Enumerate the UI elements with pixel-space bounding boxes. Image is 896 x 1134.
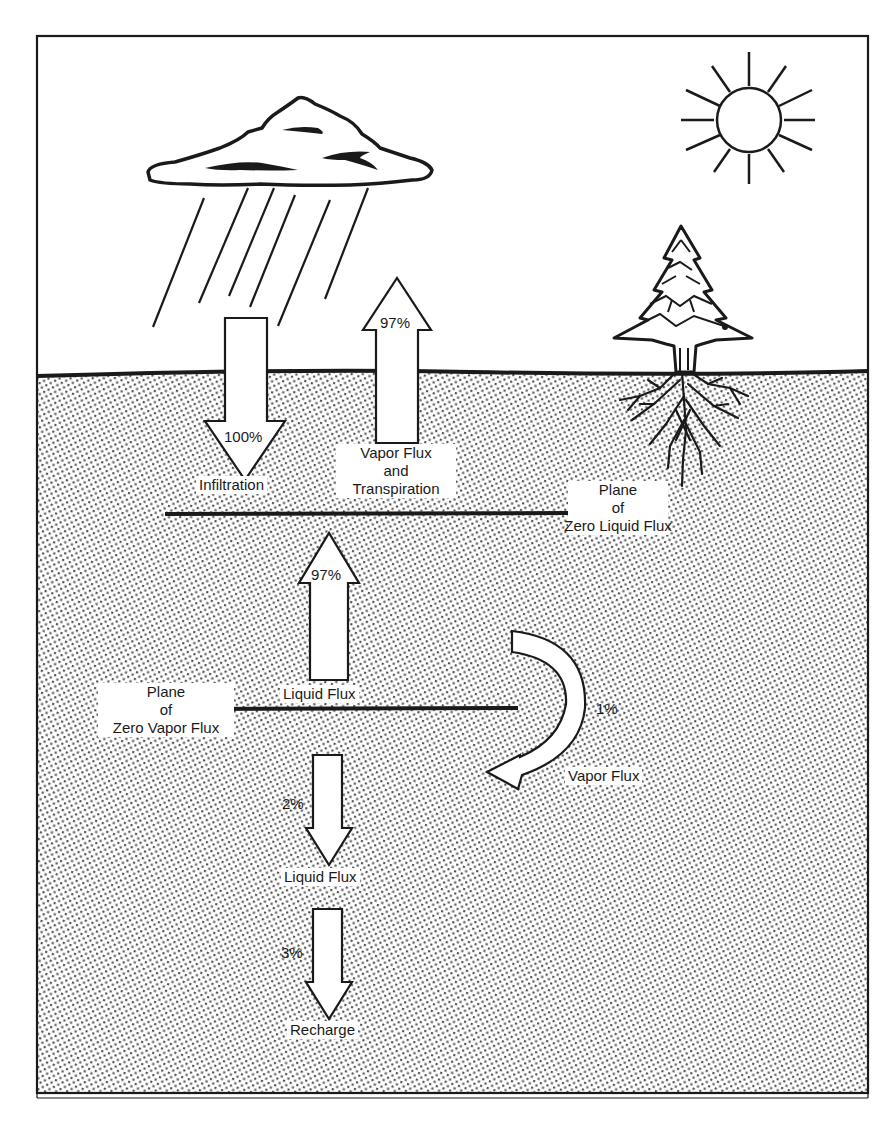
recharge-label: Recharge — [287, 1021, 358, 1039]
liquid-flux-down-percent: 2% — [282, 795, 304, 813]
liquid-flux-up-label: Liquid Flux — [280, 685, 359, 703]
sun-icon — [681, 52, 815, 184]
vapor-transpiration-label-line3: Transpiration — [339, 480, 453, 498]
diagram-graphics — [0, 0, 896, 1134]
zero-vapor-flux-plane-label: Plane of Zero Vapor Flux — [98, 683, 234, 737]
infiltration-label: Infiltration — [196, 476, 267, 494]
zero-vapor-flux-plane-line — [200, 708, 518, 709]
vapor-transpiration-label-line1: Vapor Flux — [339, 444, 453, 462]
vapor-transpiration-label-line2: and — [339, 462, 453, 480]
curved-vapor-flux-label: Vapor Flux — [565, 767, 642, 785]
vapor-transpiration-label: Vapor Flux and Transpiration — [336, 444, 456, 498]
recharge-percent: 3% — [281, 944, 303, 962]
zero-vapor-flux-line2: of — [101, 701, 231, 719]
zero-liquid-flux-line1: Plane — [571, 481, 665, 499]
zero-liquid-flux-line2: of — [571, 499, 665, 517]
liquid-flux-down-label: Liquid Flux — [281, 868, 360, 886]
zero-liquid-flux-plane-label: Plane of Zero Liquid Flux — [568, 481, 668, 535]
vapor-transpiration-percent: 97% — [380, 314, 410, 332]
liquid-flux-up-percent: 97% — [311, 566, 341, 584]
curved-vapor-flux-percent: 1% — [596, 700, 618, 718]
zero-vapor-flux-line1: Plane — [101, 683, 231, 701]
zero-vapor-flux-line3: Zero Vapor Flux — [101, 719, 231, 737]
zero-liquid-flux-plane-line — [165, 513, 568, 514]
rain-streaks — [153, 188, 368, 327]
rain-cloud-icon — [148, 98, 432, 186]
zero-liquid-flux-line3: Zero Liquid Flux — [551, 517, 685, 535]
diagram-canvas: 100% Infiltration 97% Vapor Flux and Tra… — [0, 0, 896, 1134]
conifer-tree-icon — [614, 226, 752, 372]
infiltration-percent: 100% — [224, 428, 262, 446]
